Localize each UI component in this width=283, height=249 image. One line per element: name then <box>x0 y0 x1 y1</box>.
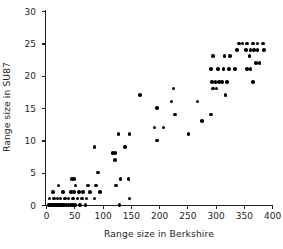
plot-area: 051015202530050100150200250300350400 <box>46 11 272 205</box>
scatter-point <box>227 67 231 71</box>
x-axis-tick-label: 300 <box>208 211 225 221</box>
y-axis-tick: 25 <box>42 43 46 44</box>
y-axis-tick: 15 <box>42 108 46 109</box>
scatter-point <box>209 67 213 71</box>
scatter-point <box>173 113 177 117</box>
x-axis-tick: 350 <box>244 205 245 209</box>
scatter-point <box>128 197 132 201</box>
scatter-point <box>81 190 85 194</box>
scatter-point <box>251 80 255 84</box>
scatter-point <box>67 197 71 201</box>
scatter-point <box>123 145 127 149</box>
scatter-point <box>94 184 98 188</box>
y-axis-tick-label: 30 <box>25 7 36 17</box>
x-axis-tick-label: 50 <box>69 211 80 221</box>
scatter-point <box>118 203 122 207</box>
x-axis-tick: 250 <box>187 205 188 209</box>
scatter-point <box>225 80 229 84</box>
scatter-plot-figure: Range size in SU87 051015202530050100150… <box>0 0 283 249</box>
scatter-point <box>261 42 265 46</box>
scatter-point <box>216 67 220 71</box>
scatter-point <box>76 197 80 201</box>
x-axis-tick-label: 0 <box>44 211 50 221</box>
scatter-point <box>262 48 266 52</box>
scatter-point <box>170 100 174 104</box>
y-axis-label: Range size in SU87 <box>1 2 15 212</box>
y-axis-tick: 20 <box>42 76 46 77</box>
scatter-point <box>128 132 132 136</box>
scatter-point <box>74 203 78 207</box>
scatter-point <box>244 48 248 52</box>
x-axis-tick: 200 <box>159 205 160 209</box>
scatter-point <box>249 67 253 71</box>
scatter-point <box>85 197 89 201</box>
x-axis-tick-label: 400 <box>264 211 281 221</box>
scatter-point <box>88 190 92 194</box>
scatter-point <box>155 106 159 110</box>
y-axis-tick-label: 20 <box>25 71 36 81</box>
scatter-point <box>222 67 226 71</box>
y-axis-tick-label: 0 <box>30 201 36 211</box>
x-axis-tick-label: 250 <box>179 211 196 221</box>
scatter-point <box>215 87 219 91</box>
scatter-point <box>155 139 159 143</box>
scatter-point <box>57 184 61 188</box>
caption-sliver <box>6 243 278 249</box>
scatter-point <box>71 197 75 201</box>
scatter-point <box>172 87 176 91</box>
scatter-point <box>256 48 260 52</box>
scatter-point <box>113 158 117 162</box>
scatter-point <box>113 151 117 155</box>
scatter-point <box>245 42 249 46</box>
scatter-point <box>248 54 252 58</box>
scatter-point <box>127 177 131 181</box>
x-axis-tick: 100 <box>103 205 104 209</box>
x-axis-tick: 400 <box>272 205 273 209</box>
scatter-point <box>138 93 142 97</box>
y-axis-tick: 10 <box>42 140 46 141</box>
scatter-point <box>93 145 97 149</box>
scatter-point <box>117 132 121 136</box>
scatter-point <box>211 54 215 58</box>
y-axis-tick: 30 <box>42 11 46 12</box>
scatter-point <box>77 190 81 194</box>
scatter-point <box>51 190 55 194</box>
scatter-point <box>48 197 52 201</box>
scatter-point <box>162 126 166 130</box>
scatter-point <box>223 54 227 58</box>
x-axis-tick-label: 350 <box>236 211 253 221</box>
scatter-point <box>86 184 90 188</box>
x-axis-tick-label: 200 <box>151 211 168 221</box>
scatter-point <box>209 113 213 117</box>
y-axis-tick-label: 10 <box>25 136 36 146</box>
scatter-point <box>98 190 102 194</box>
scatter-point <box>93 197 97 201</box>
scatter-point <box>256 42 260 46</box>
scatter-point <box>241 42 245 46</box>
y-axis-tick-label: 15 <box>25 104 36 114</box>
scatter-point <box>200 119 204 123</box>
scatter-point <box>153 126 157 130</box>
y-axis-tick-label: 5 <box>30 168 36 178</box>
scatter-point <box>61 190 65 194</box>
scatter-point <box>224 93 228 97</box>
x-axis-tick: 300 <box>216 205 217 209</box>
scatter-point <box>114 184 118 188</box>
scatter-point <box>72 190 76 194</box>
y-axis-tick-label: 25 <box>25 39 36 49</box>
x-axis-label: Range size in Berkshire <box>46 228 272 239</box>
scatter-point <box>84 203 88 207</box>
y-axis-tick: 5 <box>42 173 46 174</box>
x-axis-tick-label: 100 <box>95 211 112 221</box>
scatter-point <box>220 80 224 84</box>
x-axis-tick: 150 <box>131 205 132 209</box>
scatter-point <box>228 54 232 58</box>
scatter-point <box>251 42 255 46</box>
x-axis-tick-label: 150 <box>123 211 140 221</box>
scatter-point <box>78 203 82 207</box>
scatter-point <box>196 100 200 104</box>
scatter-point <box>80 197 84 201</box>
scatter-point <box>74 184 78 188</box>
scatter-point <box>187 132 191 136</box>
scatter-point <box>258 61 262 65</box>
